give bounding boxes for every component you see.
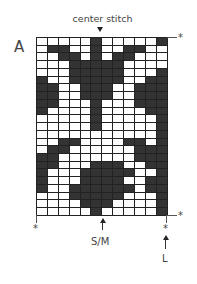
stitch-cell <box>124 131 135 139</box>
stitch-cell <box>91 53 102 61</box>
stitch-cell <box>113 185 124 193</box>
stitch-cell <box>37 46 48 54</box>
stitch-cell <box>124 208 135 216</box>
stitch-cell <box>102 84 113 92</box>
stitch-cell <box>70 46 81 54</box>
stitch-cell <box>102 46 113 54</box>
stitch-cell <box>113 69 124 77</box>
stitch-cell <box>146 38 157 46</box>
stitch-cell <box>91 177 102 185</box>
stitch-cell <box>59 131 70 139</box>
stitch-cell <box>146 193 157 201</box>
stitch-cell <box>59 84 70 92</box>
stitch-cell <box>135 185 146 193</box>
stitch-cell <box>48 208 59 216</box>
stitch-cell <box>70 193 81 201</box>
stitch-cell <box>146 169 157 177</box>
stitch-cell <box>113 169 124 177</box>
stitch-cell <box>59 38 70 46</box>
stitch-cell <box>37 61 48 69</box>
stitch-cell <box>157 169 168 177</box>
stitch-cell <box>102 123 113 131</box>
stitch-cell <box>48 77 59 85</box>
stitch-cell <box>37 131 48 139</box>
stitch-cell <box>135 131 146 139</box>
stitch-cell <box>48 46 59 54</box>
stitch-cell <box>124 193 135 201</box>
stitch-cell <box>113 46 124 54</box>
stitch-cell <box>124 100 135 108</box>
stitch-cell <box>146 92 157 100</box>
stitch-cell <box>124 169 135 177</box>
stitch-cell <box>81 208 92 216</box>
stitch-cell <box>81 154 92 162</box>
stitch-cell <box>124 84 135 92</box>
stitch-cell <box>135 123 146 131</box>
stitch-cell <box>157 177 168 185</box>
l-arrow-shaft <box>165 239 166 249</box>
stitch-cell <box>146 123 157 131</box>
stitch-cell <box>102 139 113 147</box>
stitch-cell <box>113 139 124 147</box>
stitch-cell <box>81 38 92 46</box>
stitch-cell <box>91 115 102 123</box>
stitch-cell <box>157 61 168 69</box>
stitch-cell <box>135 53 146 61</box>
stitch-cell <box>146 115 157 123</box>
stitch-cell <box>48 200 59 208</box>
stitch-cell <box>146 146 157 154</box>
stitch-cell <box>113 115 124 123</box>
stitch-cell <box>59 53 70 61</box>
stitch-cell <box>70 169 81 177</box>
stitch-cell <box>113 84 124 92</box>
stitch-cell <box>113 154 124 162</box>
stitch-cell <box>59 208 70 216</box>
size-label-l: L <box>162 253 168 264</box>
stitch-cell <box>146 185 157 193</box>
stitch-cell <box>124 53 135 61</box>
stitch-cell <box>146 177 157 185</box>
bottom-repeat-line <box>167 215 177 216</box>
stitch-cell <box>102 92 113 100</box>
stitch-cell <box>70 139 81 147</box>
stitch-cell <box>48 185 59 193</box>
stitch-cell <box>157 69 168 77</box>
stitch-cell <box>113 131 124 139</box>
stitch-cell <box>37 139 48 147</box>
stitch-cell <box>124 154 135 162</box>
stitch-cell <box>59 162 70 170</box>
stitch-cell <box>59 193 70 201</box>
stitch-cell <box>59 146 70 154</box>
stitch-cell <box>157 108 168 116</box>
stitch-cell <box>124 77 135 85</box>
bottom-repeat-star: * <box>178 211 183 221</box>
stitch-cell <box>102 61 113 69</box>
stitch-cell <box>91 77 102 85</box>
stitch-cell <box>70 146 81 154</box>
stitch-cell <box>124 146 135 154</box>
stitch-cell <box>146 162 157 170</box>
stitch-cell <box>124 185 135 193</box>
stitch-cell <box>113 123 124 131</box>
left-size-star: * <box>33 224 38 234</box>
stitch-cell <box>157 123 168 131</box>
stitch-cell <box>81 53 92 61</box>
stitch-cell <box>70 131 81 139</box>
stitch-cell <box>102 108 113 116</box>
stitch-cell <box>113 77 124 85</box>
stitch-cell <box>102 169 113 177</box>
stitch-cell <box>59 139 70 147</box>
stitch-cell <box>135 162 146 170</box>
stitch-cell <box>113 53 124 61</box>
stitch-cell <box>113 208 124 216</box>
stitch-cell <box>146 69 157 77</box>
stitch-cell <box>135 46 146 54</box>
stitch-cell <box>135 108 146 116</box>
stitch-cell <box>48 38 59 46</box>
chart-letter: A <box>14 38 24 56</box>
stitch-cell <box>146 154 157 162</box>
stitch-cell <box>37 200 48 208</box>
stitch-cell <box>91 108 102 116</box>
stitch-cell <box>48 139 59 147</box>
stitch-cell <box>146 131 157 139</box>
